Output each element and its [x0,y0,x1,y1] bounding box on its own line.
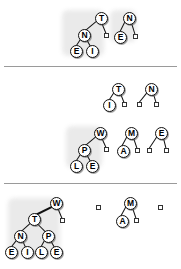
tree-null-leaf [104,147,109,152]
tree-node-n: N [78,29,91,42]
tree-node-i: I [21,246,34,259]
tree-node-i: I [86,45,99,58]
tree-node-t: T [112,83,125,96]
tree-node-w: W [50,197,63,210]
tree-node-n: N [14,230,27,243]
tree-node-p: P [42,230,55,243]
tree-null-leaf [137,102,142,107]
tree-node-l: L [35,246,48,259]
tree-node-m: M [124,197,137,210]
tree-node-t: T [28,213,41,226]
tree-null-leaf [158,205,163,210]
tree-null-leaf [96,205,101,210]
tree-node-p: P [78,144,91,157]
divider-2 [4,183,177,184]
tree-node-a: A [117,145,130,158]
tree-node-e: E [70,45,83,58]
tree-null-leaf [147,148,152,153]
tree-node-m: M [125,127,138,140]
tree-null-leaf [134,218,139,223]
tree-null-leaf [164,148,169,153]
tree-node-e: E [155,127,168,140]
tree-null-leaf [133,34,138,39]
tree-null-leaf [122,102,127,107]
tree-node-e: E [5,246,18,259]
tree-node-t: T [95,12,108,25]
tree-null-leaf [104,33,109,38]
tree-node-i: I [103,99,116,112]
tree-diagram-canvas: TNEINETINWPLEMAEWTNPEILEMA [0,0,181,269]
tree-node-w: W [94,127,107,140]
tree-node-a: A [116,215,129,228]
tree-node-n: N [145,83,158,96]
tree-null-leaf [135,148,140,153]
tree-node-e: E [114,31,127,44]
tree-null-leaf [154,102,159,107]
divider-1 [4,66,177,67]
tree-node-e: E [86,160,99,173]
tree-node-e: E [50,246,63,259]
tree-node-l: L [70,160,83,173]
tree-node-n: N [123,12,136,25]
tree-null-leaf [60,218,65,223]
